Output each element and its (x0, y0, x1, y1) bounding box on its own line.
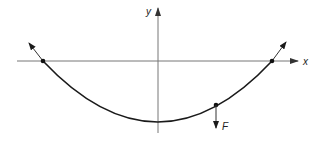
left-tangent-arrow-icon (29, 43, 43, 61)
x-axis-label: x (302, 56, 309, 67)
left-intersection-point (41, 59, 46, 64)
force-label: F (222, 121, 229, 132)
parabola-diagram: x y F (0, 0, 319, 143)
right-intersection-point (270, 59, 275, 64)
right-tangent-arrow-icon (272, 42, 286, 61)
y-axis-label: y (145, 6, 152, 17)
